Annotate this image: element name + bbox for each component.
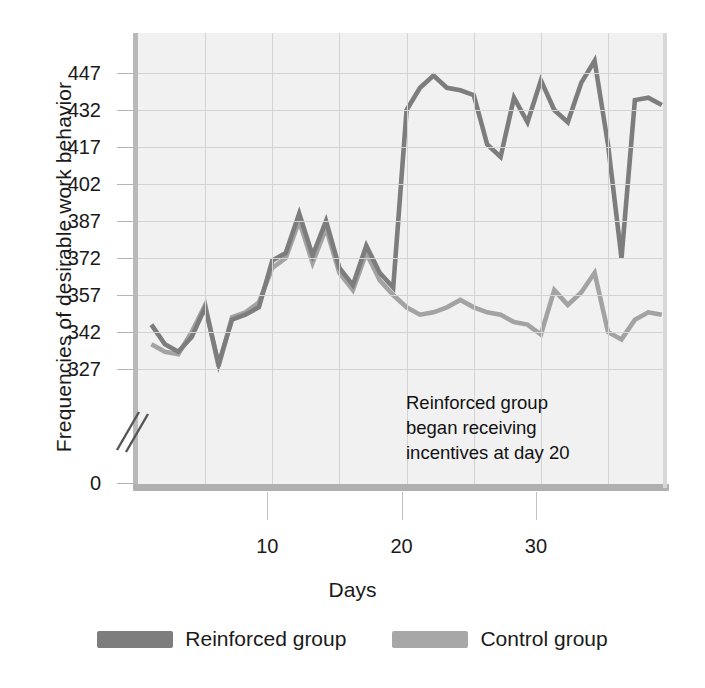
gridline-horizontal: [138, 110, 665, 111]
y-tick-label: 357: [41, 285, 101, 305]
y-tick-label: 387: [41, 211, 101, 231]
gridline-vertical: [339, 33, 340, 485]
y-tick-mark: [117, 332, 134, 333]
y-tick-mark: [117, 221, 134, 222]
gridline-vertical: [608, 33, 609, 485]
gridline-vertical: [272, 33, 273, 485]
gridline-horizontal: [138, 332, 665, 333]
gridline-horizontal: [138, 147, 665, 148]
gridline-horizontal: [138, 258, 665, 259]
chart-annotation: Reinforced group began receiving incenti…: [406, 390, 570, 465]
plot-baseline: [133, 484, 669, 491]
gridline-horizontal: [138, 221, 665, 222]
gridline-horizontal: [138, 184, 665, 185]
x-tick-label: 30: [506, 535, 566, 558]
legend-item[interactable]: Reinforced group: [97, 627, 346, 651]
y-tick-mark: [117, 147, 134, 148]
y-tick-label: 402: [41, 174, 101, 194]
y-tick-mark: [117, 110, 134, 111]
y-tick-mark: [117, 483, 134, 484]
y-tick-label: 432: [41, 100, 101, 120]
x-tick-mark: [267, 492, 268, 520]
y-tick-mark: [117, 258, 134, 259]
y-tick-label: 0: [41, 473, 101, 493]
axis-break-icon: [113, 408, 153, 454]
y-tick-label: 342: [41, 322, 101, 342]
y-tick-mark: [117, 73, 134, 74]
chart-figure: Frequencies of desirable work behavior 0…: [0, 0, 705, 688]
gridline-horizontal: [138, 369, 665, 370]
x-axis-title: Days: [0, 578, 705, 602]
gridline-horizontal: [138, 295, 665, 296]
y-tick-mark: [117, 295, 134, 296]
y-tick-label: 327: [41, 359, 101, 379]
plot-area: [133, 33, 665, 485]
legend-label: Control group: [480, 627, 607, 651]
chart-legend: Reinforced groupControl group: [0, 627, 705, 651]
x-tick-mark: [402, 492, 403, 520]
legend-swatch: [97, 631, 173, 648]
y-tick-mark: [117, 369, 134, 370]
y-tick-label: 417: [41, 137, 101, 157]
legend-swatch: [392, 631, 468, 648]
x-tick-label: 10: [237, 535, 297, 558]
plot-right-edge: [663, 33, 667, 488]
y-tick-label: 372: [41, 248, 101, 268]
legend-label: Reinforced group: [185, 627, 346, 651]
data-lines: [138, 33, 665, 485]
x-tick-mark: [536, 492, 537, 520]
gridline-vertical: [205, 33, 206, 485]
legend-item[interactable]: Control group: [392, 627, 607, 651]
y-tick-label: 447: [41, 63, 101, 83]
gridline-horizontal: [138, 73, 665, 74]
x-tick-label: 20: [372, 535, 432, 558]
y-tick-mark: [117, 184, 134, 185]
